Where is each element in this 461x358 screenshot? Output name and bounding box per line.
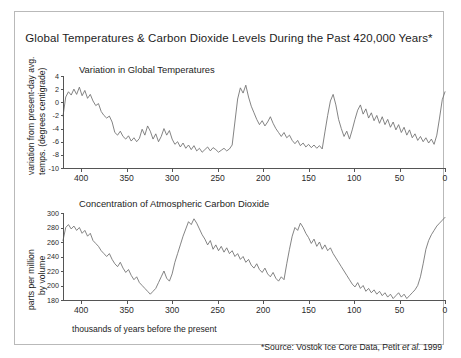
co2-x-tick — [400, 301, 401, 304]
co2-x-tick — [309, 301, 310, 304]
source-suffix: 1999 — [421, 342, 443, 352]
temperature-x-axis-line — [63, 168, 446, 169]
temperature-y-tick-label: 2 — [35, 86, 59, 93]
co2-y-tick — [61, 242, 64, 243]
co2-y-tick — [61, 257, 64, 258]
co2-y-tick-label: 200 — [35, 282, 59, 289]
temperature-plot-area — [63, 76, 445, 168]
co2-y-tick-label: 240 — [35, 253, 59, 260]
co2-x-tick — [218, 301, 219, 304]
temperature-y-tick — [61, 89, 64, 90]
co2-x-tick-label: 0 — [427, 305, 461, 315]
temperature-subtitle: Variation in Global Temperatures — [79, 64, 215, 75]
co2-x-tick — [81, 301, 82, 304]
temperature-y-tick-label: -2 — [35, 112, 59, 119]
co2-x-tick-label: 350 — [109, 305, 145, 315]
co2-x-axis-line — [63, 300, 446, 301]
source-note: *Source: Vostok Ice Core Data, Petit et … — [261, 342, 442, 352]
co2-x-tick-label: 300 — [154, 305, 190, 315]
temperature-y-tick-label: 0 — [35, 99, 59, 106]
temperature-x-tick-label: 250 — [200, 173, 236, 183]
temperature-x-tick — [445, 169, 446, 172]
temperature-x-tick-label: 50 — [382, 173, 418, 183]
co2-y-tick-label: 220 — [35, 268, 59, 275]
temperature-x-tick-label: 200 — [245, 173, 281, 183]
x-axis-caption: thousands of years before the present — [72, 324, 217, 334]
co2-ylabel-line2: by volume — [37, 256, 47, 295]
figure-frame: Global Temperatures & Carbon Dioxide Lev… — [14, 11, 444, 345]
co2-x-tick-label: 200 — [245, 305, 281, 315]
co2-x-tick — [354, 301, 355, 304]
temperature-x-tick — [309, 169, 310, 172]
co2-x-tick — [127, 301, 128, 304]
temperature-y-tick — [61, 168, 64, 169]
temperature-line — [63, 85, 445, 152]
co2-y-tick — [61, 286, 64, 287]
co2-x-tick — [263, 301, 264, 304]
temperature-y-tick — [61, 102, 64, 103]
co2-y-tick-label: 300 — [35, 210, 59, 217]
temperature-x-tick-label: 0 — [427, 173, 461, 183]
temperature-series-svg — [63, 76, 445, 168]
temperature-y-tick — [61, 76, 64, 77]
co2-y-tick — [61, 271, 64, 272]
co2-x-tick-label: 400 — [63, 305, 99, 315]
temperature-y-tick — [61, 142, 64, 143]
co2-x-tick-label: 250 — [200, 305, 236, 315]
source-italic: et al. — [402, 342, 421, 352]
temperature-x-tick-label: 150 — [291, 173, 327, 183]
temperature-panel: variation from present-day avg. temps. (… — [15, 12, 445, 187]
source-prefix: *Source: Vostok Ice Core Data, Petit — [261, 342, 402, 352]
co2-x-tick — [172, 301, 173, 304]
temperature-x-tick — [354, 169, 355, 172]
temperature-x-tick — [400, 169, 401, 172]
co2-plot-area — [63, 213, 445, 300]
temperature-y-tick — [61, 115, 64, 116]
temperature-x-tick — [172, 169, 173, 172]
temperature-y-tick-label: 4 — [35, 73, 59, 80]
temperature-y-tick — [61, 155, 64, 156]
temperature-y-tick-label: -6 — [35, 138, 59, 145]
co2-y-tick — [61, 300, 64, 301]
co2-x-tick-label: 50 — [382, 305, 418, 315]
co2-x-tick — [445, 301, 446, 304]
co2-x-tick-label: 100 — [336, 305, 372, 315]
co2-line — [63, 217, 445, 298]
temperature-y-tick-label: -8 — [35, 151, 59, 158]
co2-y-tick-label: 180 — [35, 297, 59, 304]
temperature-x-tick-label: 300 — [154, 173, 190, 183]
co2-x-tick-label: 150 — [291, 305, 327, 315]
temperature-x-tick — [127, 169, 128, 172]
co2-panel: parts per million by volume Concentratio… — [15, 190, 445, 320]
co2-y-tick-label: 280 — [35, 224, 59, 231]
temperature-y-tick — [61, 129, 64, 130]
temperature-x-tick-label: 100 — [336, 173, 372, 183]
temperature-x-tick-label: 350 — [109, 173, 145, 183]
co2-series-svg — [63, 213, 445, 300]
temperature-ylabel-line2: temps. (degrees centigrade) — [37, 68, 47, 175]
temperature-x-tick-label: 400 — [63, 173, 99, 183]
temperature-x-tick — [263, 169, 264, 172]
temperature-y-tick-label: -10 — [35, 165, 59, 172]
temperature-x-tick — [81, 169, 82, 172]
co2-y-tick-label: 260 — [35, 239, 59, 246]
co2-subtitle: Concentration of Atmospheric Carbon Diox… — [79, 198, 269, 209]
co2-y-tick — [61, 213, 64, 214]
temperature-x-tick — [218, 169, 219, 172]
temperature-y-tick-label: -4 — [35, 125, 59, 132]
co2-y-tick — [61, 228, 64, 229]
